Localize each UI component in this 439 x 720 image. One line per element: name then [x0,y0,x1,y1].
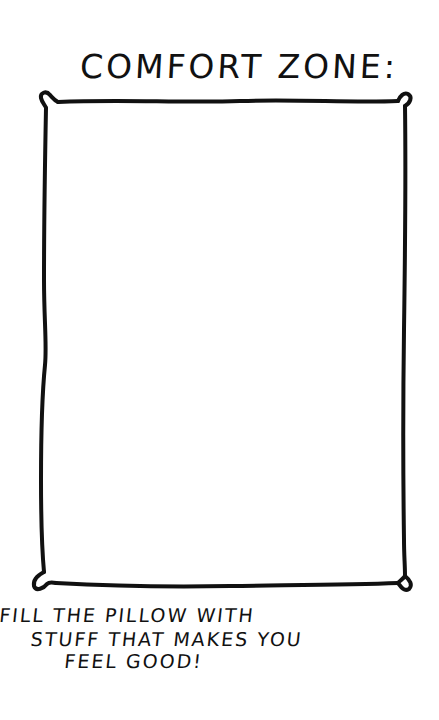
pillow-corner-top-right [398,93,411,106]
pillow-corner-top-left [41,92,58,108]
caption-line-3: FEEL GOOD! [63,650,204,672]
pillow-corner-bottom-right [398,576,411,590]
pillow-top-edge [58,100,398,102]
pillow-bottom-edge [56,583,398,586]
caption-line-1: FILL THE PILLOW WITH [0,604,256,626]
pillow-corner-bottom-left [34,572,56,589]
pillow-left-edge [41,108,46,572]
worksheet-page: COMFORT ZONE: FILL THE PILLOW WITH STUFF… [0,0,439,720]
pillow-right-edge [403,106,405,576]
caption-line-2: STUFF THAT MAKES YOU [30,628,304,650]
